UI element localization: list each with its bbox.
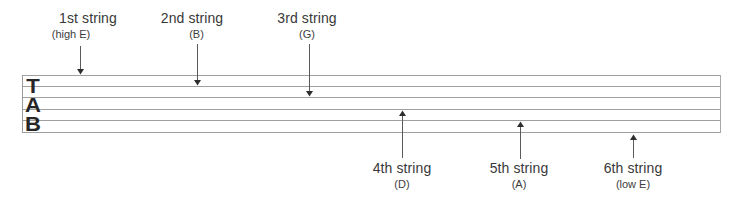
string-note: (high E): [0, 28, 148, 41]
string-label-6: 6th string (low E): [573, 160, 693, 191]
string-name: 4th string: [342, 160, 462, 176]
string-label-3: 3rd string (G): [247, 10, 367, 41]
arrow-down-icon-string-3: [306, 44, 313, 97]
arrow-up-icon-string-6: [630, 135, 637, 159]
string-note: (A): [459, 178, 579, 191]
string-name: 1st string: [28, 10, 148, 26]
tab-diagram: T A B: [0, 0, 751, 204]
arrow-up-icon-string-5: [517, 122, 524, 160]
string-label-1: 1st string (high E): [28, 10, 148, 41]
string-note: (B): [141, 28, 252, 41]
string-name: 2nd string: [132, 10, 252, 26]
arrow-down-icon-string-2: [194, 44, 201, 86]
string-label-2: 2nd string (B): [132, 10, 252, 41]
string-name: 6th string: [573, 160, 693, 176]
string-note: (low E): [573, 178, 693, 191]
string-name: 3rd string: [247, 10, 367, 26]
string-note: (D): [342, 178, 462, 191]
string-name: 5th string: [459, 160, 579, 176]
arrow-down-icon-string-1: [77, 46, 84, 75]
string-note: (G): [247, 28, 367, 41]
arrow-up-icon-string-4: [399, 111, 406, 159]
string-label-4: 4th string (D): [342, 160, 462, 191]
string-label-5: 5th string (A): [459, 160, 579, 191]
